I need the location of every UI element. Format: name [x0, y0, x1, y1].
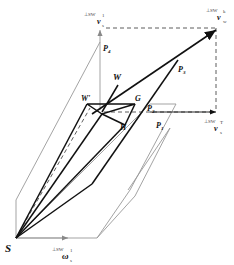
svg-text:v: v	[97, 17, 101, 26]
svg-text:s: s	[102, 23, 104, 28]
label-W: W	[113, 72, 122, 82]
svg-text:v: v	[217, 13, 221, 22]
svg-text:w: w	[223, 19, 227, 24]
svg-text:k: k	[223, 9, 226, 14]
label-v-mid: ⊥SW v T s	[204, 119, 223, 135]
svg-text:ω: ω	[62, 251, 69, 261]
svg-text:⊥SW: ⊥SW	[206, 8, 218, 13]
label-omega: ⊥SW ω 1 s	[52, 247, 73, 263]
svg-text:s: s	[70, 258, 72, 263]
label-v-right: ⊥SW v k w	[206, 8, 227, 24]
svg-text:1: 1	[102, 13, 105, 18]
label-P2: P2	[147, 104, 155, 114]
label-v-top: ⊥SW v 1 s	[84, 12, 105, 28]
label-P1: P1	[156, 121, 163, 131]
label-W-prime: W'	[81, 94, 91, 103]
svg-text:1: 1	[70, 248, 73, 253]
label-S: S	[5, 242, 11, 254]
bold-rays	[16, 60, 178, 238]
main-vector-arrow	[92, 30, 216, 114]
vector-projection-diagram: S W W' G H P4 P3 P2 P1 ⊥SW v 1 s ⊥SW v k…	[0, 0, 234, 265]
svg-text:⊥SW: ⊥SW	[84, 12, 96, 17]
label-P4: P4	[103, 44, 111, 54]
svg-text:s: s	[220, 130, 222, 135]
svg-text:v: v	[214, 124, 218, 133]
bottom-plane	[16, 104, 176, 238]
label-G: G	[135, 94, 141, 103]
label-H: H	[119, 123, 127, 132]
svg-text:T: T	[220, 120, 223, 125]
label-P3: P3	[178, 65, 186, 75]
